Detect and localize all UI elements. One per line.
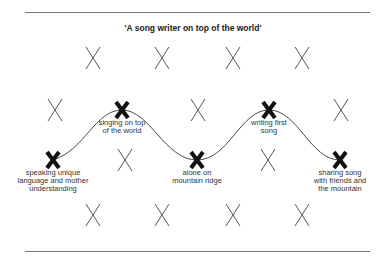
small-x-icon	[295, 204, 309, 226]
journey-diagram	[0, 0, 386, 260]
key-x-icon	[47, 152, 59, 168]
small-x-icon	[295, 47, 309, 69]
small-markers	[48, 47, 348, 226]
bottom-rule	[25, 251, 370, 252]
small-x-icon	[261, 149, 275, 171]
small-x-icon	[191, 99, 205, 121]
key-point-label: writing first song	[219, 119, 319, 135]
journey-curve	[53, 110, 340, 160]
small-x-icon	[334, 99, 348, 121]
small-x-icon	[155, 47, 169, 69]
key-point-label: speaking unique language and mother unde…	[3, 169, 103, 193]
small-x-icon	[48, 99, 62, 121]
small-x-icon	[86, 204, 100, 226]
key-point-label: singing on top of the world	[72, 119, 172, 135]
small-x-icon	[86, 47, 100, 69]
small-x-icon	[118, 149, 132, 171]
small-x-icon	[155, 204, 169, 226]
small-x-icon	[226, 47, 240, 69]
key-point-label: alone on mountain ridge	[147, 169, 247, 185]
key-point-label: sharing song with friends and the mounta…	[290, 169, 386, 193]
small-x-icon	[226, 204, 240, 226]
